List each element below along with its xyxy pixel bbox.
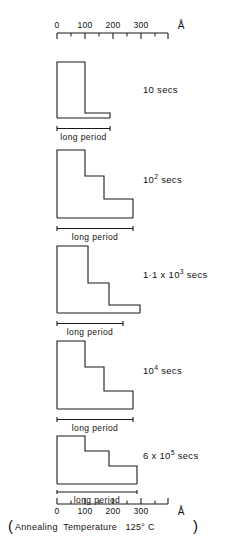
histogram-outline-panel-3 xyxy=(57,246,140,313)
bottom-tick-label-300: 300 xyxy=(133,506,148,516)
series-label-panel-3: 1·1 x 103 secs xyxy=(143,268,208,280)
histogram-outline-panel-1 xyxy=(57,62,110,118)
top-axis: 0 100 200 300 Å xyxy=(54,19,184,39)
figure-caption: ( Annealing Temperature 125° C ) xyxy=(8,517,198,534)
top-tick-label-300: 300 xyxy=(133,20,148,30)
panel-10-secs: long period 10 secs xyxy=(57,62,178,142)
figure-container: 0 100 200 300 Å long period 10 secs long… xyxy=(0,0,225,537)
long-period-bracket-panel-2 xyxy=(57,226,133,231)
series-label-panel-4: 104 secs xyxy=(143,364,182,376)
long-period-label-panel-4: long period xyxy=(72,423,118,433)
long-period-bracket-panel-3 xyxy=(57,321,123,326)
panel-10e2-secs: long period 102 secs xyxy=(57,150,182,242)
series-label-panel-2: 102 secs xyxy=(143,173,182,185)
long-period-label-panel-1: long period xyxy=(60,132,106,142)
panel-6e5-secs: long period 6 x 105 secs xyxy=(57,436,198,505)
figure-svg: 0 100 200 300 Å long period 10 secs long… xyxy=(0,0,225,537)
caption-text: Annealing Temperature 125° C xyxy=(15,522,155,532)
histogram-outline-panel-5 xyxy=(57,436,137,484)
top-tick-label-0: 0 xyxy=(54,20,59,30)
top-tick-label-200: 200 xyxy=(105,20,120,30)
panel-10e4-secs: long period 104 secs xyxy=(57,341,182,433)
caption-close-paren: ) xyxy=(193,517,198,534)
bottom-axis-unit-angstrom: Å xyxy=(178,505,185,517)
top-tick-label-100: 100 xyxy=(77,20,92,30)
panel-1p1e3-secs: long period 1·1 x 103 secs xyxy=(57,246,208,337)
bottom-tick-label-0: 0 xyxy=(54,506,59,516)
top-axis-unit-angstrom: Å xyxy=(178,19,185,31)
long-period-label-panel-2: long period xyxy=(72,232,118,242)
bottom-tick-label-200: 200 xyxy=(105,506,120,516)
series-label-panel-1: 10 secs xyxy=(143,84,178,95)
caption-open-paren: ( xyxy=(8,517,13,534)
long-period-bracket-panel-1 xyxy=(57,126,110,131)
long-period-bracket-panel-4 xyxy=(57,417,133,422)
long-period-bracket-panel-5 xyxy=(57,490,137,494)
long-period-label-panel-3: long period xyxy=(67,327,113,337)
histogram-outline-panel-2 xyxy=(57,150,133,218)
series-label-panel-5: 6 x 105 secs xyxy=(143,449,198,461)
bottom-tick-label-100: 100 xyxy=(77,506,92,516)
histogram-outline-panel-4 xyxy=(57,341,133,409)
